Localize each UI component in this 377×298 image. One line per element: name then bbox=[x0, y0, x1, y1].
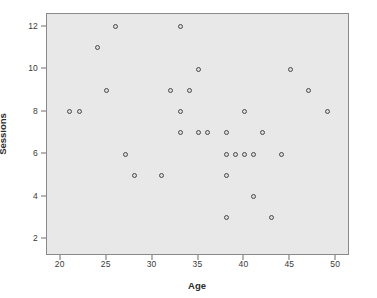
y-tick-mark bbox=[41, 68, 46, 69]
data-point bbox=[113, 24, 118, 29]
data-points-layer bbox=[47, 14, 348, 254]
data-point bbox=[279, 152, 284, 157]
y-tick-mark bbox=[41, 238, 46, 239]
x-axis: 20253035404550 bbox=[46, 255, 349, 279]
x-tick-label: 40 bbox=[238, 259, 248, 269]
data-point bbox=[77, 109, 82, 114]
data-point bbox=[224, 215, 229, 220]
x-tick-label: 45 bbox=[284, 259, 294, 269]
data-point bbox=[205, 130, 210, 135]
data-point bbox=[196, 67, 201, 72]
data-point bbox=[178, 130, 183, 135]
data-point bbox=[251, 152, 256, 157]
data-point bbox=[224, 173, 229, 178]
y-tick-label: 6 bbox=[33, 148, 38, 158]
y-tick-mark bbox=[41, 25, 46, 26]
data-point bbox=[168, 88, 173, 93]
data-point bbox=[251, 194, 256, 199]
data-point bbox=[67, 109, 72, 114]
data-point bbox=[260, 130, 265, 135]
data-point bbox=[242, 109, 247, 114]
data-point bbox=[178, 109, 183, 114]
data-point bbox=[123, 152, 128, 157]
data-point bbox=[325, 109, 330, 114]
plot-area bbox=[46, 13, 349, 255]
data-point bbox=[242, 152, 247, 157]
data-point bbox=[159, 173, 164, 178]
y-tick-label: 10 bbox=[28, 63, 38, 73]
y-tick-mark bbox=[41, 153, 46, 154]
data-point bbox=[95, 45, 100, 50]
y-tick-label: 4 bbox=[33, 191, 38, 201]
data-point bbox=[104, 88, 109, 93]
x-tick-label: 25 bbox=[101, 259, 111, 269]
data-point bbox=[224, 152, 229, 157]
y-tick-mark bbox=[41, 195, 46, 196]
data-point bbox=[196, 130, 201, 135]
y-tick-label: 2 bbox=[33, 233, 38, 243]
y-tick-mark bbox=[41, 110, 46, 111]
data-point bbox=[269, 215, 274, 220]
x-tick-label: 20 bbox=[55, 259, 65, 269]
x-tick-label: 30 bbox=[147, 259, 157, 269]
data-point bbox=[224, 130, 229, 135]
x-tick-label: 50 bbox=[330, 259, 340, 269]
data-point bbox=[288, 67, 293, 72]
x-axis-label: Age bbox=[188, 280, 206, 291]
y-tick-label: 12 bbox=[28, 21, 38, 31]
y-tick-label: 8 bbox=[33, 106, 38, 116]
data-point bbox=[306, 88, 311, 93]
data-point bbox=[187, 88, 192, 93]
data-point bbox=[233, 152, 238, 157]
data-point bbox=[132, 173, 137, 178]
scatter-plot-figure: 24681012 20253035404550 Sessions Age bbox=[0, 0, 377, 298]
y-axis-label: Sessions bbox=[0, 113, 8, 155]
data-point bbox=[178, 24, 183, 29]
x-tick-label: 35 bbox=[193, 259, 203, 269]
